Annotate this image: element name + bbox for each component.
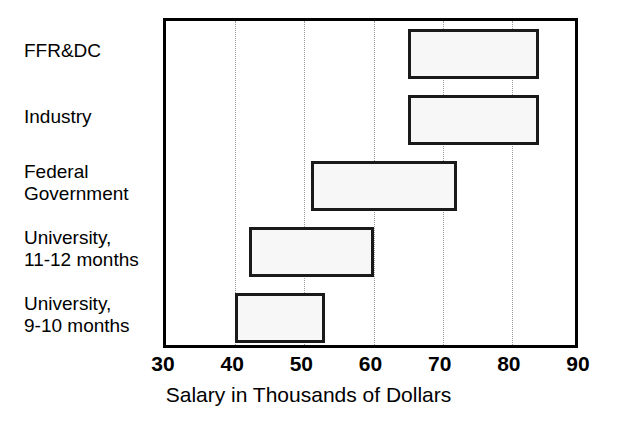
range-bar: [249, 227, 374, 277]
range-bar: [408, 29, 539, 79]
x-tick-label-80: 80: [497, 352, 520, 376]
x-tick-label-90: 90: [566, 352, 589, 376]
category-label-industry: Industry: [0, 106, 155, 128]
salary-range-chart: FFR&DC Industry Federal Government Unive…: [0, 0, 617, 424]
category-label-federal-government: Federal Government: [0, 161, 155, 205]
x-axis-title: Salary in Thousands of Dollars: [0, 383, 617, 407]
x-axis: 30405060708090: [163, 348, 578, 382]
x-tick-label-60: 60: [359, 352, 382, 376]
plot-area: [163, 18, 578, 348]
x-tick-label-70: 70: [428, 352, 451, 376]
category-label-university-11-12: University, 11-12 months: [0, 227, 155, 271]
category-label-ffrdc: FFR&DC: [0, 40, 155, 62]
x-tick-label-40: 40: [220, 352, 243, 376]
x-tick-label-30: 30: [151, 352, 174, 376]
range-bar: [235, 293, 325, 343]
category-label-university-9-10: University, 9-10 months: [0, 293, 155, 337]
range-bar: [408, 95, 539, 145]
category-axis: FFR&DC Industry Federal Government Unive…: [0, 0, 163, 348]
x-tick-label-50: 50: [290, 352, 313, 376]
range-bar: [311, 161, 456, 211]
